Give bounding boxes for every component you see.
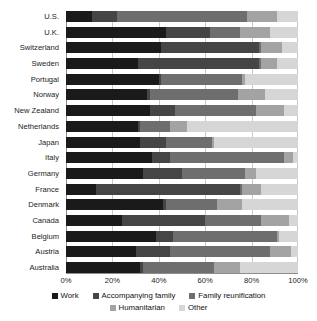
bar-segment (136, 246, 171, 257)
x-axis-tick-label: 100% (288, 275, 307, 286)
bar-segment (242, 184, 261, 195)
legend-label: Other (188, 303, 208, 312)
bar-segment (170, 246, 270, 257)
y-axis-tick-label: Portugal (0, 74, 62, 85)
y-axis-tick-label: Netherlands (0, 121, 62, 132)
bar-segment (152, 152, 171, 163)
y-axis-tick-label: U.S. (0, 11, 62, 22)
bar-segment (261, 42, 282, 53)
bar-segment (261, 215, 289, 226)
legend-swatch-icon (52, 293, 58, 299)
legend-label: Work (61, 291, 79, 300)
bar-segment (140, 137, 166, 148)
bar-segment (66, 137, 140, 148)
y-axis-tick-label: Japan (0, 137, 62, 148)
y-axis-tick-label: Italy (0, 152, 62, 163)
bar-row (66, 42, 298, 53)
bar-segment (66, 215, 122, 226)
bar-row (66, 11, 298, 22)
bar-segment (242, 199, 298, 210)
legend-swatch-icon (110, 305, 116, 311)
bar-segment (143, 168, 182, 179)
bar-segment (210, 27, 240, 38)
bar-segment (256, 105, 284, 116)
bar-segment (270, 27, 298, 38)
bar-segment (66, 27, 166, 38)
bar-segment (245, 74, 298, 85)
bar-segment (170, 152, 284, 163)
bar-segment (66, 231, 156, 242)
bar-segment (289, 215, 298, 226)
y-axis-tick-label: U.K. (0, 27, 62, 38)
bar-segment (166, 199, 217, 210)
bar-segment (66, 42, 161, 53)
legend-label: Family reunification (198, 291, 265, 300)
bar-segment (240, 27, 270, 38)
bar-row (66, 74, 298, 85)
x-axis-tick-label: 20% (105, 275, 120, 286)
bar-segment (66, 168, 143, 179)
bar-row (66, 231, 298, 242)
bar-row (66, 121, 298, 132)
y-axis-tick-label: Switzerland (0, 42, 62, 53)
x-axis-tick-label: 60% (198, 275, 213, 286)
bar-segment (187, 121, 298, 132)
bar-row (66, 89, 298, 100)
legend-label: Accompanying family (102, 291, 176, 300)
stacked-bar-chart: U.S.U.K.SwitzerlandSwedenPortugalNorwayN… (0, 0, 317, 321)
y-axis-tick-label: Canada (0, 215, 62, 226)
x-axis-labels: 0%20%40%60%80%100% (66, 275, 298, 287)
bar-segment (261, 58, 277, 69)
bar-segment (166, 137, 212, 148)
y-axis-tick-label: Australia (0, 262, 62, 273)
bar-segment (66, 11, 92, 22)
y-axis-tick-label: Belgium (0, 231, 62, 242)
y-axis-labels: U.S.U.K.SwitzerlandSwedenPortugalNorwayN… (0, 11, 62, 273)
bar-segment (66, 152, 152, 163)
bar-row (66, 58, 298, 69)
legend-swatch-icon (179, 305, 185, 311)
bar-segment (284, 152, 293, 163)
bar-segment (66, 121, 138, 132)
bar-segment (66, 58, 138, 69)
y-axis-tick-label: Austria (0, 246, 62, 257)
bar-segment (66, 184, 96, 195)
bar-row (66, 262, 298, 273)
bar-row (66, 168, 298, 179)
bar-row (66, 184, 298, 195)
bar-segment (117, 11, 247, 22)
bar-segment (238, 89, 266, 100)
legend-item[interactable]: Work (52, 291, 79, 300)
bar-segment (66, 105, 150, 116)
plot-area (66, 11, 298, 273)
bar-row (66, 137, 298, 148)
x-axis-tick-label: 0% (61, 275, 72, 286)
bar-segment (156, 231, 172, 242)
bar-segment (245, 168, 257, 179)
legend-swatch-icon (189, 293, 195, 299)
bar-row (66, 199, 298, 210)
legend-item[interactable]: Humanitarian (110, 303, 165, 312)
bar-segment (256, 168, 298, 179)
legend-item[interactable]: Accompanying family (93, 291, 176, 300)
bar-segment (261, 184, 298, 195)
bar-segment (143, 262, 215, 273)
legend-item[interactable]: Family reunification (189, 291, 265, 300)
bar-segment (96, 184, 240, 195)
bar-segment (217, 199, 243, 210)
y-axis-tick-label: Denmark (0, 199, 62, 210)
legend: WorkAccompanying familyFamily reunificat… (0, 291, 317, 315)
legend-item[interactable]: Other (179, 303, 208, 312)
bar-row (66, 105, 298, 116)
bar-segment (161, 74, 242, 85)
bar-segment (150, 105, 176, 116)
y-axis-tick-label: Germany (0, 168, 62, 179)
bar-rows (66, 11, 298, 273)
bar-segment (170, 121, 186, 132)
bar-segment (140, 121, 170, 132)
bar-segment (265, 89, 297, 100)
bar-segment (291, 246, 298, 257)
bar-segment (284, 105, 298, 116)
bar-segment (150, 89, 238, 100)
bar-segment (247, 11, 277, 22)
